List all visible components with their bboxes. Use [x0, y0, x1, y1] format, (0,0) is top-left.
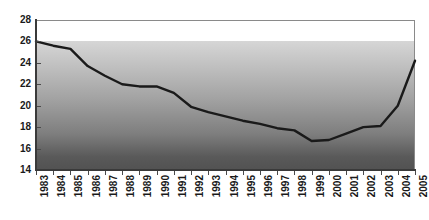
- x-axis-tick-mark: [243, 171, 244, 175]
- x-axis-tick-label: 1990: [161, 175, 171, 197]
- y-axis-tick-label: 18: [5, 122, 31, 132]
- y-axis-tick-mark: [37, 127, 41, 128]
- series-line-layer: [36, 20, 415, 170]
- x-axis-tick-mark: [381, 171, 382, 175]
- x-axis-tick-mark: [139, 171, 140, 175]
- x-axis-tick-mark: [415, 171, 416, 175]
- x-axis-tick-label: 1988: [126, 175, 136, 197]
- x-axis-tick-mark: [363, 171, 364, 175]
- x-axis-tick-mark: [226, 171, 227, 175]
- series-line: [36, 41, 415, 141]
- y-axis-tick-mark: [37, 149, 41, 150]
- y-axis-tick-mark: [37, 63, 41, 64]
- x-axis-tick-label: 2004: [402, 175, 412, 197]
- x-axis-tick-label: 1993: [212, 175, 222, 197]
- y-axis-labels: 2826242220181614: [0, 0, 31, 220]
- x-axis-tick-label: 2002: [367, 175, 377, 197]
- y-axis-tick-mark: [37, 84, 41, 85]
- x-axis-tick-label: 1992: [195, 175, 205, 197]
- x-axis-tick-label: 1994: [230, 175, 240, 197]
- x-axis-tick-mark: [260, 171, 261, 175]
- x-axis-tick-mark: [157, 171, 158, 175]
- line-chart: 2826242220181614 19831984198519861987198…: [0, 0, 429, 220]
- x-axis-tick-mark: [398, 171, 399, 175]
- y-axis-tick-label: 14: [5, 165, 31, 175]
- y-axis-tick-label: 24: [5, 58, 31, 68]
- x-axis-tick-mark: [294, 171, 295, 175]
- x-axis-tick-mark: [208, 171, 209, 175]
- y-axis-tick-label: 22: [5, 79, 31, 89]
- x-axis-tick-mark: [53, 171, 54, 175]
- x-axis-tick-label: 1999: [316, 175, 326, 197]
- x-axis-tick-label: 1996: [264, 175, 274, 197]
- x-axis-tick-mark: [191, 171, 192, 175]
- y-axis-tick-label: 26: [5, 36, 31, 46]
- x-axis-tick-mark: [122, 171, 123, 175]
- x-axis-tick-mark: [174, 171, 175, 175]
- x-axis-tick-label: 1987: [109, 175, 119, 197]
- x-axis-tick-label: 1985: [74, 175, 84, 197]
- x-axis-tick-mark: [36, 171, 37, 175]
- plot-area: [36, 20, 415, 170]
- x-axis-tick-label: 2005: [419, 175, 429, 197]
- x-axis-tick-label: 2000: [333, 175, 343, 197]
- x-axis-tick-mark: [70, 171, 71, 175]
- x-axis-tick-label: 1991: [178, 175, 188, 197]
- y-axis-tick-mark: [37, 106, 41, 107]
- x-axis-labels: 1983198419851986198719881989199019911992…: [36, 171, 415, 220]
- y-axis-tick-label: 20: [5, 101, 31, 111]
- x-axis-tick-label: 2001: [350, 175, 360, 197]
- x-axis-tick-mark: [346, 171, 347, 175]
- x-axis-tick-mark: [277, 171, 278, 175]
- x-axis-tick-label: 1997: [281, 175, 291, 197]
- x-axis-tick-label: 1984: [57, 175, 67, 197]
- x-axis-tick-label: 1983: [40, 175, 50, 197]
- x-axis-tick-mark: [329, 171, 330, 175]
- x-axis-tick-mark: [105, 171, 106, 175]
- x-axis-tick-label: 2003: [385, 175, 395, 197]
- y-axis-tick-mark: [37, 41, 41, 42]
- y-axis-tick-label: 28: [5, 15, 31, 25]
- x-axis-tick-label: 1998: [298, 175, 308, 197]
- x-axis-tick-mark: [88, 171, 89, 175]
- x-axis-tick-mark: [312, 171, 313, 175]
- x-axis-tick-label: 1989: [143, 175, 153, 197]
- x-axis-tick-label: 1995: [247, 175, 257, 197]
- y-axis-tick-label: 16: [5, 144, 31, 154]
- x-axis-tick-label: 1986: [92, 175, 102, 197]
